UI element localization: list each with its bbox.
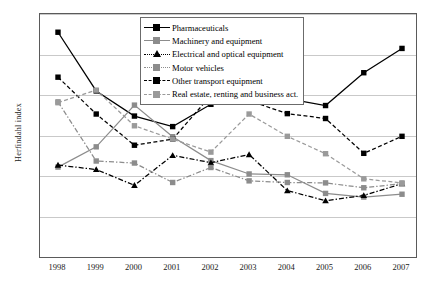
data-point [361,176,366,181]
legend-label: Other transport equipment [172,76,263,86]
data-point [208,165,213,170]
data-point [94,111,99,116]
herfindahl-index-line-chart: Herfindahl index 0.00.10.20.30.40.50.6 1… [0,0,428,288]
legend-label: Electrical and optical equipment [172,49,283,59]
data-point [170,180,175,185]
series-4 [55,99,404,190]
data-point [246,111,251,116]
data-point [169,152,176,158]
legend-label: Machinery and equipment [172,36,262,46]
data-point [285,180,290,185]
data-point [132,123,137,128]
data-point [399,180,404,185]
data-point [170,136,175,141]
legend-marker-icon [144,75,170,87]
data-point [246,178,251,183]
data-point [285,172,290,177]
legend-item-4: Motor vehicles [144,61,298,74]
legend-item-3: Electrical and optical equipment [144,48,298,61]
data-point [132,102,137,107]
data-point [132,160,137,165]
series-line [58,105,402,197]
data-point [94,144,99,149]
data-point [399,46,404,51]
data-point [323,180,328,185]
data-point [323,191,328,196]
data-point [284,187,291,193]
legend-item-1: Pharmaceuticals [144,21,298,34]
legend-marker-icon [144,22,170,34]
legend-marker-icon [144,35,170,47]
legend-marker-icon [144,48,170,60]
legend-marker-icon [144,88,170,100]
data-point [361,151,366,156]
chart-legend: PharmaceuticalsMachinery and equipmentEl… [140,17,304,105]
y-axis-title: Herfindahl index [14,73,23,193]
data-point [285,111,290,116]
legend-item-5: Other transport equipment [144,74,298,87]
data-point [361,70,366,75]
data-point [94,87,99,92]
legend-marker-icon [144,62,170,74]
data-point [246,171,251,176]
data-point [323,151,328,156]
data-point [55,74,60,79]
data-point [94,158,99,163]
legend-label: Pharmaceuticals [172,23,228,33]
legend-label: Motor vehicles [172,63,224,73]
legend-item-6: Real estate, renting and business act. [144,87,298,100]
legend-item-2: Machinery and equipment [144,34,298,47]
data-point [246,151,253,157]
legend-label: Real estate, renting and business act. [172,89,298,99]
x-tick-label: 2007 [378,262,424,272]
data-point [399,192,404,197]
data-point [132,143,137,148]
series-2 [55,102,404,199]
data-point [170,124,175,129]
data-point [323,116,328,121]
data-point [399,134,404,139]
data-point [208,149,213,154]
data-point [361,185,366,190]
data-point [323,103,328,108]
data-point [132,113,137,118]
data-point [55,30,60,35]
data-point [55,100,60,105]
data-point [285,134,290,139]
